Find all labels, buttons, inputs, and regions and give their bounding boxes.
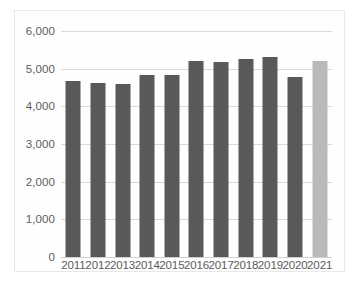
x-axis-tick-label: 2021 <box>307 259 332 271</box>
x-axis-tick-label: 2014 <box>135 259 160 271</box>
chart-frame: 01,0002,0003,0004,0005,0006,000 20112012… <box>14 10 345 272</box>
bar-2019[interactable] <box>263 57 278 257</box>
bar-slot <box>258 31 283 257</box>
bar-slot <box>86 31 111 257</box>
bar-2011[interactable] <box>66 81 81 257</box>
y-axis-tick-label: 1,000 <box>26 213 55 225</box>
x-axis-tick-label: 2013 <box>110 259 135 271</box>
bar-2014[interactable] <box>140 75 155 257</box>
bar-2015[interactable] <box>164 75 179 257</box>
y-axis-tick-label: 6,000 <box>26 25 55 37</box>
bar-slot <box>135 31 160 257</box>
bar-slot <box>160 31 185 257</box>
x-axis-tick-label: 2015 <box>159 259 184 271</box>
bar-2021[interactable] <box>312 61 327 257</box>
y-axis-tick-label: 4,000 <box>26 100 55 112</box>
bar-slot <box>209 31 234 257</box>
bar-2016[interactable] <box>189 61 204 257</box>
bar-2018[interactable] <box>238 59 253 257</box>
y-axis-tick-label: 0 <box>49 251 56 263</box>
bar-slot <box>184 31 209 257</box>
x-axis-tick-label: 2016 <box>184 259 209 271</box>
x-axis-tick-label: 2020 <box>282 259 307 271</box>
y-axis-tick-label: 5,000 <box>26 63 55 75</box>
plot-area <box>61 31 332 257</box>
bar-slot <box>110 31 135 257</box>
bar-slot <box>307 31 332 257</box>
bar-slot <box>61 31 86 257</box>
bar-2017[interactable] <box>214 62 229 257</box>
bar-2012[interactable] <box>90 83 105 257</box>
y-axis-tick-label: 3,000 <box>26 138 55 150</box>
bar-2013[interactable] <box>115 84 130 257</box>
x-axis-tick-label: 2017 <box>209 259 234 271</box>
y-axis-tick-label: 2,000 <box>26 176 55 188</box>
x-axis-tick-label: 2012 <box>85 259 110 271</box>
y-axis: 01,0002,0003,0004,0005,0006,000 <box>15 31 59 257</box>
bar-series <box>61 31 332 257</box>
bar-slot <box>283 31 308 257</box>
gridline-0 <box>61 257 332 258</box>
bar-slot <box>233 31 258 257</box>
x-axis-tick-label: 2019 <box>258 259 283 271</box>
x-axis-tick-label: 2011 <box>61 259 85 271</box>
x-axis-tick-label: 2018 <box>233 259 258 271</box>
x-axis: 2011201220132014201520162017201820192020… <box>61 259 332 275</box>
bar-2020[interactable] <box>288 77 303 257</box>
